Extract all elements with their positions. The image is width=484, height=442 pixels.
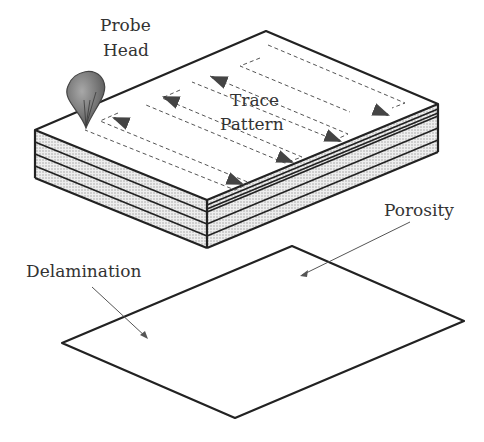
probe-head-label-line2: Head bbox=[103, 40, 149, 60]
delamination-label: Delamination bbox=[26, 261, 141, 281]
porosity-defects bbox=[272, 274, 293, 293]
probe-head-icon bbox=[67, 71, 105, 128]
porosity-arrow-icon bbox=[300, 270, 308, 277]
trace-pattern-label-line2: Pattern bbox=[220, 114, 284, 134]
porosity-leader-line bbox=[302, 222, 410, 275]
inspection-diagram: Probe Head Trace Pattern Porosity Delami… bbox=[0, 0, 484, 442]
delamination-defect bbox=[143, 335, 185, 365]
porosity-label: Porosity bbox=[384, 200, 454, 220]
probe-head-label-line1: Probe bbox=[100, 15, 151, 35]
trace-pattern-label-line1: Trace bbox=[230, 90, 279, 110]
composite-laminate bbox=[35, 31, 438, 248]
